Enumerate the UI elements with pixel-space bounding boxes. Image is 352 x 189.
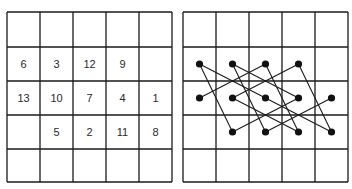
path-dot (295, 128, 302, 135)
path-dot (229, 94, 236, 101)
cell-number: 10 (50, 92, 62, 104)
path-dot (262, 60, 269, 67)
path-dot (229, 128, 236, 135)
cell-number: 6 (20, 58, 26, 70)
path-dot (196, 60, 203, 67)
path-dot (229, 60, 236, 67)
cell-number: 11 (117, 126, 128, 138)
path-dot (328, 94, 335, 101)
cell-number: 2 (86, 126, 92, 138)
path-dot (328, 128, 335, 135)
path-dot (295, 60, 302, 67)
cell-number: 13 (17, 92, 29, 104)
figure: 63129131074152118 (0, 0, 352, 189)
path-dot (295, 94, 302, 101)
knight-path-dots (196, 60, 335, 135)
cell-number: 9 (119, 58, 125, 70)
path-dot (262, 94, 269, 101)
left-grid-labels: 63129131074152118 (17, 58, 158, 138)
cell-number: 3 (53, 58, 59, 70)
cell-number: 7 (86, 92, 92, 104)
path-dot (196, 94, 203, 101)
cell-number: 4 (119, 92, 125, 104)
cell-number: 12 (83, 58, 95, 70)
cell-number: 5 (53, 126, 59, 138)
cell-number: 1 (152, 92, 158, 104)
path-dot (262, 128, 269, 135)
cell-number: 8 (152, 126, 158, 138)
